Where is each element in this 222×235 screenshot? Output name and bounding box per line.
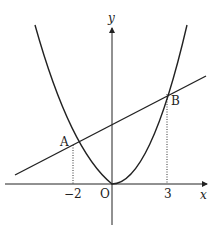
origin-label: O <box>100 188 110 200</box>
y-axis-label: y <box>108 12 115 24</box>
tick-label-3: 3 <box>164 188 172 200</box>
x-axis-label: x <box>200 189 207 201</box>
tick-label-neg2: −2 <box>64 188 82 200</box>
parabola-curve <box>35 25 187 184</box>
point-b-label: B <box>171 95 180 107</box>
line-ab <box>15 76 206 175</box>
point-a-label: A <box>60 136 69 148</box>
diagram: y x O −2 3 A B <box>0 0 222 235</box>
graph-canvas <box>0 0 222 235</box>
